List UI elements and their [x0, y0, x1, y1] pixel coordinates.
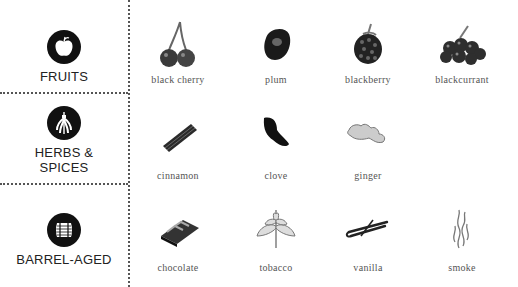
flavor-item-plum: plum [231, 18, 321, 85]
flavor-item-ginger: ginger [323, 112, 413, 181]
vanilla-bean-icon [343, 206, 393, 250]
horizontal-divider [0, 92, 128, 94]
flavor-item-chocolate: chocolate [133, 206, 223, 273]
ginger-icon [343, 112, 393, 156]
tobacco-leaf-icon [251, 206, 301, 250]
cherry-icon [153, 18, 203, 70]
flavor-item-blackberry: blackberry [323, 18, 413, 85]
category-label: HERBS & SPICES [0, 145, 128, 175]
herb-bundle-icon [47, 106, 81, 140]
horizontal-divider [0, 183, 128, 185]
flavor-item-tobacco: tobacco [231, 206, 321, 273]
apple-icon [47, 30, 81, 64]
cinnamon-icon [153, 112, 203, 156]
flavor-item-cinnamon: cinnamon [133, 112, 223, 181]
flavor-item-black-cherry: black cherry [133, 18, 223, 85]
blackberry-icon [343, 18, 393, 70]
flavor-item-clove: clove [231, 112, 321, 181]
category-fruits: FRUITS [0, 30, 128, 84]
flavor-item-blackcurrant: blackcurrant [417, 18, 507, 85]
chocolate-icon [153, 206, 203, 250]
category-herbs-spices: HERBS & SPICES [0, 106, 128, 175]
clove-icon [251, 112, 301, 156]
blackcurrant-icon [434, 18, 490, 70]
flavor-item-vanilla: vanilla [323, 206, 413, 273]
plum-icon [251, 18, 301, 70]
vertical-divider [128, 0, 130, 287]
category-label: BARREL-AGED [0, 252, 128, 267]
category-barrel-aged: BARREL-AGED [0, 213, 128, 267]
smoke-icon [437, 206, 487, 250]
flavor-item-smoke: smoke [417, 206, 507, 273]
category-label: FRUITS [0, 69, 128, 84]
barrel-icon [47, 213, 81, 247]
